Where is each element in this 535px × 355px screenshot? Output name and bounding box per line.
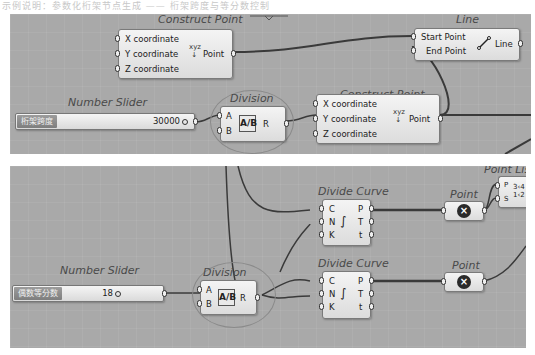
- construct-point-title: Construct Point: [158, 14, 242, 26]
- input-z-label: Z coordinate: [125, 64, 179, 74]
- input-grip-p[interactable]: [495, 182, 500, 189]
- slider-2-knob-icon[interactable]: [115, 291, 121, 297]
- input-y-label: Y coordinate: [125, 49, 178, 59]
- output-t2-label: t: [359, 230, 362, 240]
- point-title: Point: [450, 188, 478, 201]
- point-list-node[interactable]: P S 3‹41‹2: [498, 176, 526, 208]
- division-2-title: Division: [203, 266, 247, 279]
- output-p2-label: P: [358, 276, 363, 286]
- output-grip-point[interactable]: [482, 207, 487, 214]
- output-grip-p2[interactable]: [369, 277, 374, 284]
- input-grip-s[interactable]: [495, 195, 500, 202]
- output-r2-label: R: [240, 293, 246, 303]
- point-list-icon: 3‹41‹2: [513, 183, 525, 199]
- output-grip-p[interactable]: [369, 205, 374, 212]
- input-grip-x2[interactable]: [313, 100, 318, 107]
- point-node[interactable]: ×: [444, 201, 484, 221]
- caption-text: 示例说明：参数化桁架节点生成 —— 桁架跨度与等分数控制: [0, 0, 535, 12]
- input-grip-n[interactable]: [319, 218, 324, 225]
- input-grip-y2[interactable]: [313, 115, 318, 122]
- divide-curve-title: Divide Curve: [318, 185, 389, 198]
- input-grip-end[interactable]: [411, 47, 416, 54]
- number-slider-divisions[interactable]: 偶数等分数 18: [12, 285, 164, 302]
- divide-curve-icon: ∫: [340, 214, 346, 228]
- construct-point-2-node[interactable]: X coordinate Y coordinate Z coordinate x…: [316, 94, 440, 144]
- input-grip-z2[interactable]: [313, 130, 318, 137]
- point-list-title: Point List: [484, 166, 526, 176]
- divide-curve-2-node[interactable]: C N K ∫ P T t: [322, 271, 371, 319]
- output-p-label: P: [358, 204, 363, 214]
- number-slider-span[interactable]: 桁架跨度 30000: [15, 113, 195, 130]
- output-grip-slider[interactable]: [193, 118, 198, 125]
- output-grip-t[interactable]: [369, 218, 374, 225]
- output-t3-label: T: [358, 289, 363, 299]
- input-grip-c[interactable]: [319, 205, 324, 212]
- output-t-label: T: [358, 217, 363, 227]
- canvas-bottom[interactable]: Divide Curve C N K ∫ P T t Point × Point…: [10, 166, 526, 348]
- input-grip-a2[interactable]: [197, 286, 202, 293]
- slider-knob-icon[interactable]: [182, 119, 188, 125]
- input-k2-label: K: [329, 302, 335, 312]
- input-c-label: C: [329, 204, 335, 214]
- division-2-icon: A/B: [218, 289, 235, 306]
- output-grip-point[interactable]: [231, 50, 236, 57]
- output-grip-point2[interactable]: [438, 115, 443, 122]
- input-grip-b[interactable]: [217, 127, 222, 134]
- input-grip-b2[interactable]: [197, 300, 202, 307]
- input-grip-k[interactable]: [319, 231, 324, 238]
- input-a2-label: A: [206, 285, 212, 295]
- xyz-point-icon-2: xyz ↓: [393, 108, 405, 124]
- input-grip-z[interactable]: [115, 65, 120, 72]
- line-node[interactable]: Start Point End Point Line: [414, 28, 520, 61]
- output-grip-slider-2[interactable]: [162, 290, 167, 297]
- input-grip-point[interactable]: [441, 207, 446, 214]
- output-grip-point2b[interactable]: [482, 278, 487, 285]
- divide-curve-node[interactable]: C N K ∫ P T t: [322, 199, 371, 246]
- input-b2-label: B: [206, 299, 212, 309]
- point-param-2-icon: ×: [457, 275, 471, 289]
- output-grip-line[interactable]: [518, 40, 523, 47]
- divide-curve-2-title: Divide Curve: [318, 257, 389, 270]
- input-grip-start[interactable]: [411, 33, 416, 40]
- output-grip-r[interactable]: [284, 120, 289, 127]
- division-title: Division: [230, 92, 274, 105]
- input-n2-label: N: [329, 289, 335, 299]
- point-2-title: Point: [452, 259, 480, 272]
- input-grip-x[interactable]: [115, 35, 120, 42]
- input-a-label: A: [226, 111, 232, 121]
- input-grip-a[interactable]: [217, 112, 222, 119]
- input-grip-y[interactable]: [115, 50, 120, 57]
- division-icon: A/B: [239, 115, 256, 132]
- output-grip-t2[interactable]: [369, 231, 374, 238]
- wires-bottom: [10, 166, 526, 348]
- slider-value: 30000: [153, 114, 180, 129]
- point-2-node[interactable]: ×: [444, 272, 484, 292]
- slider-2-value: 18: [102, 286, 113, 301]
- division-node[interactable]: A B A/B R: [220, 106, 286, 142]
- slider-2-name-label: 偶数等分数: [14, 287, 62, 300]
- input-grip-n2[interactable]: [319, 290, 324, 297]
- output-grip-t3[interactable]: [369, 290, 374, 297]
- input-c2-label: C: [329, 276, 335, 286]
- input-b-label: B: [226, 126, 232, 136]
- slider-2-title: Number Slider: [60, 264, 139, 277]
- input-grip-k2[interactable]: [319, 303, 324, 310]
- xyz-point-icon: xyz ↓: [189, 43, 201, 59]
- input-z2-label: Z coordinate: [323, 129, 377, 139]
- canvas-top[interactable]: Construct Point X coordinate Y coordinat…: [10, 14, 531, 154]
- output-point-label: Point: [203, 49, 224, 59]
- input-start-label: Start Point: [421, 32, 466, 42]
- input-grip-point2[interactable]: [441, 278, 446, 285]
- input-grip-c2[interactable]: [319, 277, 324, 284]
- divide-curve-2-icon: ∫: [340, 286, 346, 300]
- division-2-node[interactable]: A B A/B R: [200, 280, 257, 315]
- input-end-label: End Point: [426, 46, 466, 56]
- construct-point-node[interactable]: X coordinate Y coordinate Z coordinate x…: [118, 29, 233, 79]
- line-title: Line: [456, 14, 479, 26]
- slider-name-label: 桁架跨度: [17, 115, 57, 128]
- output-grip-r2[interactable]: [255, 294, 260, 301]
- output-line-label: Line: [495, 39, 513, 49]
- output-grip-t4[interactable]: [369, 303, 374, 310]
- output-r-label: R: [263, 119, 269, 129]
- line-icon: [477, 36, 491, 50]
